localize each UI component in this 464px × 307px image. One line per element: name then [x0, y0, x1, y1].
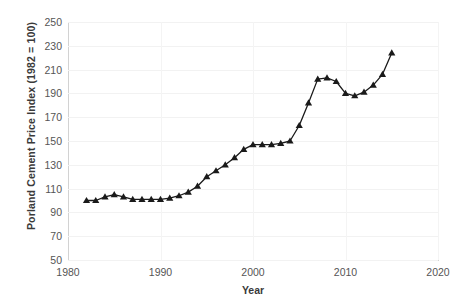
- y-tick-label: 250: [22, 17, 62, 28]
- data-point-marker: [296, 122, 303, 128]
- data-series-cement-price-index: [68, 22, 438, 260]
- y-tick-label: 90: [22, 207, 62, 218]
- data-point-marker: [323, 74, 330, 80]
- chart-title-clipped: [60, 0, 460, 7]
- y-tick-label: 50: [22, 255, 62, 266]
- y-tick-label: 130: [22, 160, 62, 171]
- data-point-marker: [388, 49, 395, 55]
- data-point-marker: [379, 71, 386, 77]
- y-tick-label: 230: [22, 41, 62, 52]
- data-point-marker: [185, 189, 192, 195]
- data-point-marker: [212, 167, 219, 173]
- chart-root: Porland Cement Price Index (1982 = 100) …: [0, 0, 464, 307]
- x-tick-label: 1990: [141, 266, 181, 278]
- data-point-marker: [286, 137, 293, 143]
- data-point-marker: [111, 191, 118, 197]
- y-tick-label: 190: [22, 88, 62, 99]
- series-line: [87, 53, 392, 201]
- y-tick-label: 210: [22, 64, 62, 75]
- data-point-marker: [240, 146, 247, 152]
- gridline-horizontal: [68, 260, 438, 261]
- data-point-marker: [305, 99, 312, 105]
- gridline-vertical: [438, 22, 439, 260]
- y-tick-label: 70: [22, 231, 62, 242]
- x-tick-label: 2000: [233, 266, 273, 278]
- x-axis-title: Year: [68, 284, 438, 296]
- y-tick-label: 170: [22, 112, 62, 123]
- x-tick-label: 2010: [326, 266, 366, 278]
- y-tick-label: 110: [22, 183, 62, 194]
- x-tick-label: 2020: [418, 266, 458, 278]
- y-tick-label: 150: [22, 136, 62, 147]
- x-tick-label: 1980: [48, 266, 88, 278]
- data-point-marker: [203, 173, 210, 179]
- plot-area: 507090110130150170190210230250 198019902…: [68, 22, 438, 260]
